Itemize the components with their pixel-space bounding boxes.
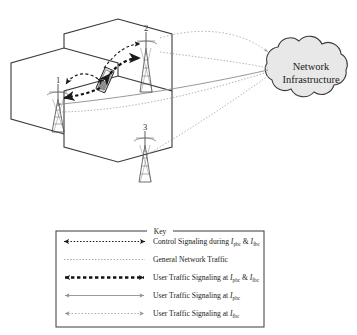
link-tower2-cloud-fbc <box>160 31 268 52</box>
key-sub1-4: fbc <box>233 313 240 319</box>
key-text-0: Control Signaling during <box>153 237 231 246</box>
key-label-general-network-traffic: General Network Traffic <box>153 255 229 264</box>
key-label-user-traffic-both: User Traffic Signaling at Ipbc & Ifbc <box>153 273 260 283</box>
network-infrastructure-cloud: Network Infrastructure <box>265 36 347 96</box>
key-label-control-signaling: Control Signaling during Ipbc & Ifbc <box>153 237 260 247</box>
key-text-3: User Traffic Signaling at <box>153 291 230 300</box>
key-label-user-traffic-pbc: User Traffic Signaling at Ipbc <box>153 291 241 301</box>
key-text-4: User Traffic Signaling at <box>153 309 230 318</box>
key-mid-0: & <box>241 237 251 246</box>
key-title: Key <box>154 227 167 236</box>
key-legend: Key Control Signaling during Ipbc & Ifbc… <box>56 227 264 327</box>
link-tower2-cloud-general <box>160 52 268 68</box>
tower-1-label: 1 <box>56 75 60 85</box>
key-sub2-2: fbc <box>252 277 259 283</box>
cloud-label-line1: Network <box>293 61 330 72</box>
network-handoff-diagram: Network Infrastructure 1 <box>0 0 357 335</box>
hexagon-cell-bottom <box>64 76 172 162</box>
cloud-label-line2: Infrastructure <box>282 74 339 85</box>
key-sub2-0: fbc <box>253 241 260 247</box>
diagram-canvas: Network Infrastructure 1 <box>0 0 357 335</box>
key-label-user-traffic-fbc: User Traffic Signaling at Ifbc <box>153 309 240 319</box>
key-text-1: General Network Traffic <box>153 255 229 264</box>
tower-3-label: 3 <box>143 122 147 132</box>
key-mid-2: & <box>240 273 250 282</box>
key-sub1-3: pbc <box>233 295 241 301</box>
tower-2-label: 2 <box>144 23 148 33</box>
key-text-2: User Traffic Signaling at <box>153 273 230 282</box>
